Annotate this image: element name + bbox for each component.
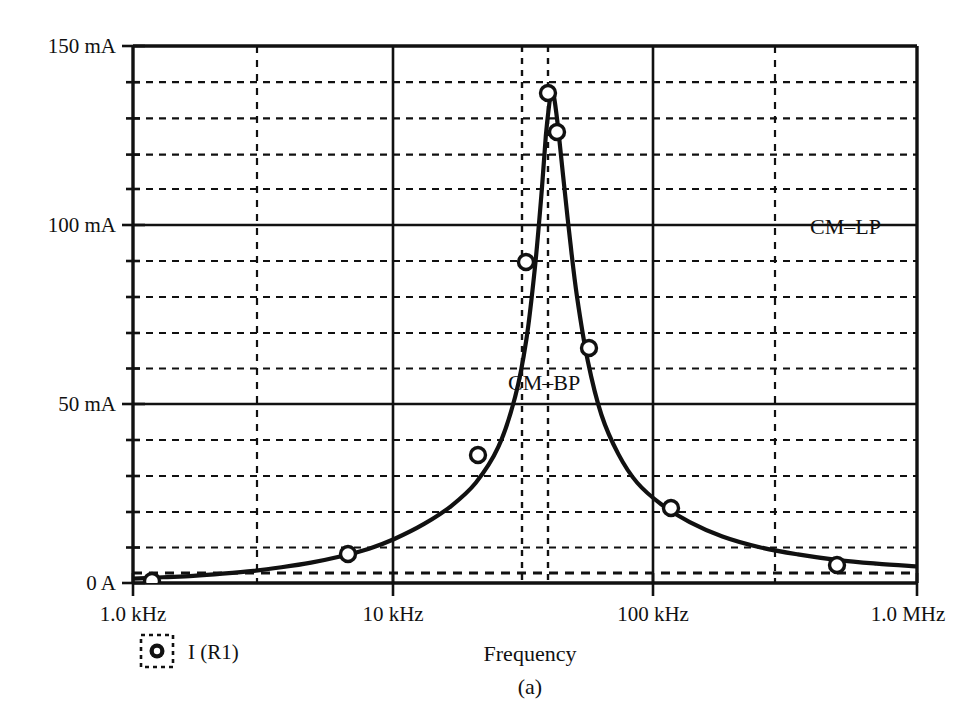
x-tick-label-100khz: 100 kHz xyxy=(617,602,689,626)
x-tick-label-1mhz: 1.0 MHz xyxy=(871,602,946,626)
y-tick-label-0a: 0 A xyxy=(86,571,117,595)
spice-probe-plot: 150 mA 100 mA 50 mA 0 A 1.0 kHz 10 kHz 1… xyxy=(0,0,965,728)
data-point-marker xyxy=(145,574,160,589)
cm-lp-label: CM–LP xyxy=(810,214,881,239)
x-tick-label-1khz: 1.0 kHz xyxy=(100,602,167,626)
figure-caption: (a) xyxy=(518,674,542,699)
circle-marker-icon-hole xyxy=(154,648,160,654)
data-point-marker xyxy=(541,86,556,101)
x-axis-title: Frequency xyxy=(484,641,577,666)
y-tick-label-50ma: 50 mA xyxy=(58,392,117,416)
figure-container: 150 mA 100 mA 50 mA 0 A 1.0 kHz 10 kHz 1… xyxy=(0,0,965,728)
x-tick-label-10khz: 10 kHz xyxy=(362,602,423,626)
data-point-marker xyxy=(830,558,845,573)
legend-label-i-r1: I (R1) xyxy=(188,640,239,664)
data-point-marker xyxy=(519,255,534,270)
data-point-marker xyxy=(664,501,679,516)
data-point-marker xyxy=(341,547,356,562)
data-point-marker xyxy=(550,125,565,140)
cm-bp-label: CM–BP xyxy=(508,370,580,395)
y-tick-label-100ma: 100 mA xyxy=(48,213,117,237)
y-tick-label-150ma: 150 mA xyxy=(48,34,117,58)
plot-area-background xyxy=(133,46,917,583)
legend[interactable]: I (R1) xyxy=(141,635,239,667)
data-point-marker xyxy=(471,448,486,463)
data-point-marker xyxy=(582,341,597,356)
